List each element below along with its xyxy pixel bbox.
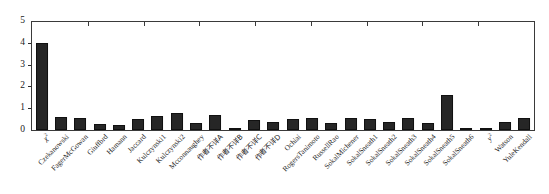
bar-slot xyxy=(437,21,456,130)
bar-slot xyxy=(495,21,514,130)
bar[interactable] xyxy=(229,128,241,130)
y-tick-label: 1 xyxy=(20,103,25,113)
bar[interactable] xyxy=(403,118,415,130)
bar-slot xyxy=(32,21,51,130)
bar[interactable] xyxy=(480,128,492,130)
bar[interactable] xyxy=(55,117,67,130)
right-axis-line xyxy=(534,21,535,131)
bar-slot xyxy=(148,21,167,130)
y-tick-label: 4 xyxy=(20,38,25,48)
bar-slot xyxy=(322,21,341,130)
bar-slot xyxy=(476,21,495,130)
x-tick-mark xyxy=(311,22,312,26)
x-tick-mark xyxy=(255,22,256,26)
bar[interactable] xyxy=(499,122,511,130)
x-tick-mark xyxy=(199,22,200,26)
bar[interactable] xyxy=(74,118,86,130)
bar-slot xyxy=(302,21,321,130)
bar[interactable] xyxy=(345,118,357,130)
bar-slot xyxy=(167,21,186,130)
bar[interactable] xyxy=(422,123,434,130)
bar[interactable] xyxy=(36,43,48,130)
bar-chart: 012345 χ2CzekanowskiFagerMcGowanGiuffbrd… xyxy=(0,0,549,194)
x-tick-mark xyxy=(367,22,368,26)
x-tick-mark xyxy=(88,22,89,26)
bar[interactable] xyxy=(209,115,221,130)
bar-slot xyxy=(186,21,205,130)
x-tick-label: y2 xyxy=(485,133,495,143)
x-axis-labels: χ2CzekanowskiFagerMcGowanGiuffbrdHamannJ… xyxy=(32,131,534,194)
bar-slot xyxy=(515,21,534,130)
y-axis: 012345 xyxy=(0,0,32,194)
bar-slot xyxy=(206,21,225,130)
bar[interactable] xyxy=(306,118,318,130)
y-tick-label: 5 xyxy=(20,16,25,26)
bar-slot xyxy=(109,21,128,130)
bar[interactable] xyxy=(518,118,530,130)
bar-slot xyxy=(51,21,70,130)
bar-slot xyxy=(457,21,476,130)
x-tick-mark xyxy=(422,22,423,26)
bar[interactable] xyxy=(171,113,183,130)
bar-slot xyxy=(90,21,109,130)
bar-slot xyxy=(360,21,379,130)
bar-slot xyxy=(380,21,399,130)
bar-slot xyxy=(399,21,418,130)
bar[interactable] xyxy=(267,122,279,130)
bar-slot xyxy=(418,21,437,130)
bar-slot xyxy=(71,21,90,130)
bar-slot xyxy=(341,21,360,130)
bar[interactable] xyxy=(383,122,395,130)
bar[interactable] xyxy=(325,123,337,130)
y-tick-label: 0 xyxy=(20,125,25,135)
bar[interactable] xyxy=(287,119,299,130)
y-tick-label: 2 xyxy=(20,81,25,91)
bar-slot xyxy=(225,21,244,130)
y-tick-label: 3 xyxy=(20,60,25,70)
plot-area xyxy=(32,21,534,130)
x-tick-mark xyxy=(478,22,479,26)
bar[interactable] xyxy=(190,123,202,130)
x-tick-label: Giuffbrd xyxy=(85,133,109,157)
bar[interactable] xyxy=(113,125,125,130)
x-tick-label: χ2 xyxy=(41,133,51,143)
bar-slot xyxy=(244,21,263,130)
bar-slot xyxy=(283,21,302,130)
bar[interactable] xyxy=(364,119,376,130)
bar-slot xyxy=(129,21,148,130)
bar[interactable] xyxy=(460,128,472,130)
bar-slot xyxy=(264,21,283,130)
x-tick-mark xyxy=(144,22,145,26)
bar[interactable] xyxy=(152,116,164,130)
bar[interactable] xyxy=(248,120,260,130)
bar[interactable] xyxy=(132,119,144,130)
bar[interactable] xyxy=(441,95,453,130)
bar[interactable] xyxy=(94,124,106,130)
